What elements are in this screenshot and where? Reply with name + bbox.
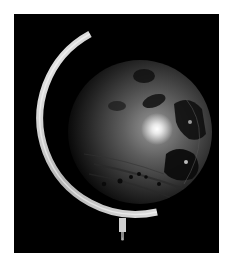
globe-stand-post (119, 218, 126, 241)
globe-illustration (14, 14, 219, 253)
globe-sphere (68, 60, 212, 204)
globe-photo: Globe with meridian arc, dark background… (14, 14, 219, 253)
light-reflection (141, 113, 173, 145)
continent-shape (133, 69, 155, 83)
